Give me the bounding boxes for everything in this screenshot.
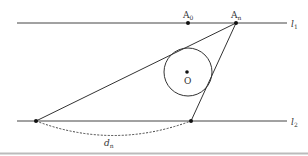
point-a0 bbox=[186, 21, 190, 25]
label-l1: l1 bbox=[291, 19, 298, 30]
triangle-side-right bbox=[191, 23, 236, 121]
label-an: An bbox=[230, 10, 242, 21]
geometry-diagram: A0 An O l1 l2 dn bbox=[0, 0, 308, 156]
label-l2: l2 bbox=[291, 117, 298, 128]
label-dn: dn bbox=[104, 138, 114, 149]
triangle-side-left bbox=[36, 23, 236, 121]
point-o bbox=[185, 70, 189, 74]
point-bottom-right bbox=[189, 119, 193, 123]
distance-arc bbox=[36, 121, 191, 136]
label-o: O bbox=[184, 76, 191, 86]
point-an bbox=[234, 21, 238, 25]
point-bottom-left bbox=[34, 119, 38, 123]
label-a0: A0 bbox=[182, 10, 194, 21]
